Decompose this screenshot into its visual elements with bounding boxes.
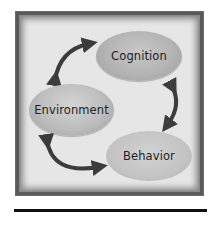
node-behavior: Behavior bbox=[106, 131, 192, 181]
arrow-cognition-behavior-icon bbox=[168, 86, 176, 124]
node-cognition: Cognition bbox=[96, 31, 182, 81]
node-environment: Environment bbox=[29, 84, 114, 136]
node-behavior-label: Behavior bbox=[123, 149, 175, 163]
node-environment-label: Environment bbox=[34, 103, 109, 117]
arrow-behavior-environment-icon bbox=[47, 140, 98, 168]
arrow-environment-cognition-icon bbox=[55, 44, 88, 80]
node-cognition-label: Cognition bbox=[111, 49, 167, 63]
horizontal-rule bbox=[14, 209, 207, 212]
